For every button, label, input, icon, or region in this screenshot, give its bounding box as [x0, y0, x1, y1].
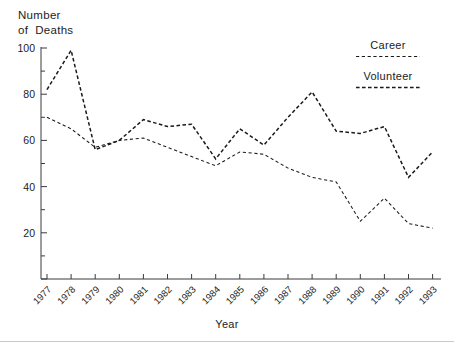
- y-axis-ticks: [41, 48, 47, 279]
- x-tick-label-1986: 1986: [248, 284, 271, 307]
- x-tick-label-1982: 1982: [151, 284, 174, 307]
- legend: Career Volunteer: [336, 38, 440, 100]
- x-tick-label-1979: 1979: [79, 284, 102, 307]
- x-tick-label-1992: 1992: [392, 284, 415, 307]
- y-tick-label-40: 40: [23, 181, 35, 193]
- x-tick-label-1987: 1987: [272, 284, 295, 307]
- legend-swatch-career: [356, 55, 420, 58]
- x-tick-label-1988: 1988: [296, 284, 319, 307]
- y-tick-label-20: 20: [23, 227, 35, 239]
- y-tick-label-100: 100: [17, 42, 35, 54]
- x-tick-label-1990: 1990: [344, 284, 367, 307]
- legend-entry-career: Career: [336, 38, 440, 58]
- legend-label-career: Career: [336, 38, 440, 52]
- x-axis-ticks: [47, 274, 433, 279]
- legend-swatch-volunteer: [356, 86, 420, 89]
- y-tick-label-80: 80: [23, 88, 35, 100]
- x-tick-label-1985: 1985: [223, 284, 246, 307]
- footer-divider: [0, 341, 454, 342]
- x-tick-label-1991: 1991: [368, 284, 391, 307]
- x-tick-label-1993: 1993: [416, 284, 439, 307]
- x-tick-label-1984: 1984: [199, 284, 222, 307]
- x-tick-label-1977: 1977: [31, 284, 54, 307]
- x-tick-label-1980: 1980: [103, 284, 126, 307]
- y-axis-tick-labels: 20406080100: [17, 42, 35, 239]
- x-tick-label-1978: 1978: [55, 284, 78, 307]
- chart-figure: Number of Deaths 20406080100 19771978197…: [0, 0, 454, 346]
- x-tick-label-1989: 1989: [320, 284, 343, 307]
- x-axis-tick-labels: 1977197819791980198119821983198419851986…: [31, 284, 439, 307]
- x-tick-label-1981: 1981: [127, 284, 150, 307]
- legend-label-volunteer: Volunteer: [336, 69, 440, 83]
- legend-entry-volunteer: Volunteer: [336, 69, 440, 89]
- x-axis-title: Year: [0, 318, 454, 330]
- y-tick-label-60: 60: [23, 134, 35, 146]
- x-tick-label-1983: 1983: [175, 284, 198, 307]
- series-line-career: [47, 117, 433, 228]
